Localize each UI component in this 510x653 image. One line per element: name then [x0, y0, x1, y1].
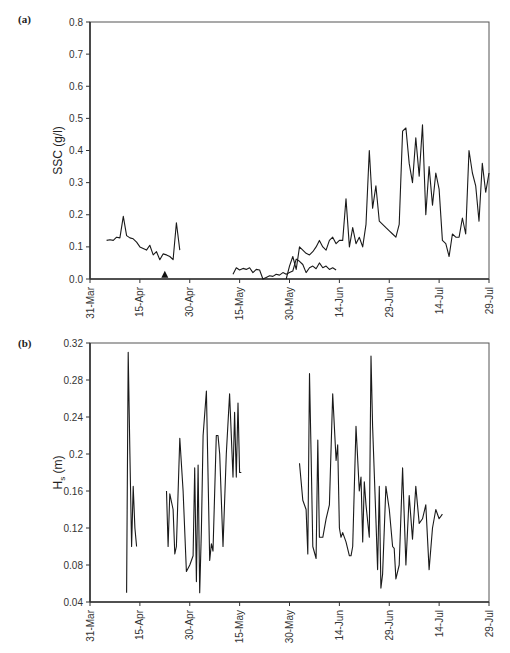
- x-tick-label: 14-Jul: [434, 610, 445, 637]
- x-tick-label: 30-Apr: [184, 286, 195, 317]
- x-tick-label: 14-Jun: [334, 610, 345, 641]
- y-tick-label: 0.8: [69, 17, 83, 28]
- data-line: [107, 216, 180, 259]
- x-tick-label: 15-May: [234, 287, 245, 320]
- y-axis-title: SSC (g/l): [51, 126, 65, 175]
- x-tick-label: 15-May: [234, 610, 245, 643]
- x-tick-label: 31-Mar: [85, 609, 96, 641]
- x-tick-label: 14-Jul: [434, 287, 445, 314]
- y-tick-label: 0.7: [69, 49, 83, 60]
- x-tick-label: 30-May: [284, 287, 295, 320]
- x-tick-label: 14-Jun: [334, 287, 345, 318]
- y-tick-label: 0.2: [69, 209, 83, 220]
- plot-frame: [90, 22, 489, 279]
- y-tick-label: 0.16: [64, 486, 84, 497]
- data-line: [300, 356, 443, 588]
- y-tick-label: 0.04: [64, 597, 84, 608]
- chart-hs: 0.040.080.120.160.20.240.280.3231-Mar15-…: [51, 338, 495, 644]
- y-tick-label: 0.2: [69, 449, 83, 460]
- y-tick-label: 0.5: [69, 113, 83, 124]
- y-tick-label: 0.1: [69, 241, 83, 252]
- y-tick-label: 0.3: [69, 177, 83, 188]
- data-line: [127, 352, 137, 593]
- x-tick-label: 30-May: [284, 610, 295, 643]
- triangle-marker-icon: [161, 271, 168, 278]
- x-tick-label: 29-Jul: [484, 610, 495, 637]
- y-tick-label: 0.24: [64, 412, 84, 423]
- x-tick-label: 30-Apr: [184, 609, 195, 640]
- x-tick-label: 29-Jul: [484, 287, 495, 314]
- x-tick-label: 29-Jun: [384, 610, 395, 641]
- x-tick-label: 15-Apr: [134, 286, 145, 317]
- y-tick-label: 0.6: [69, 81, 83, 92]
- x-tick-label: 31-Mar: [85, 286, 96, 318]
- x-tick-label: 29-Jun: [384, 287, 395, 318]
- y-tick-label: 0.32: [64, 338, 84, 349]
- y-tick-label: 0.28: [64, 375, 84, 386]
- y-tick-label: 0.12: [64, 523, 84, 534]
- data-line: [167, 391, 242, 593]
- x-tick-label: 15-Apr: [134, 609, 145, 640]
- data-line: [233, 259, 336, 279]
- y-axis-title: Hs (m): [51, 456, 67, 490]
- y-tick-label: 0.08: [64, 560, 84, 571]
- figure-canvas: 0.00.10.20.30.40.50.60.70.831-Mar15-Apr3…: [0, 0, 510, 653]
- chart-ssc: 0.00.10.20.30.40.50.60.70.831-Mar15-Apr3…: [51, 17, 495, 321]
- y-tick-label: 0.4: [69, 145, 83, 156]
- data-line: [286, 125, 489, 279]
- y-tick-label: 0.0: [69, 274, 83, 285]
